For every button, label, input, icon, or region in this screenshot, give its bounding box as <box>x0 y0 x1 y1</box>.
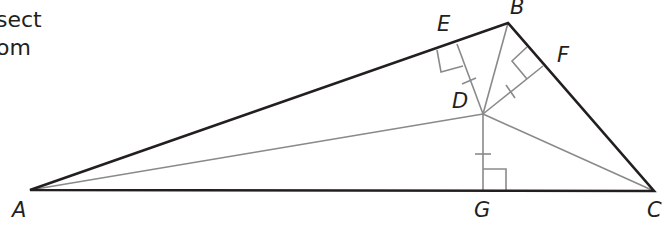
label-g: G <box>474 198 490 222</box>
segment-da <box>30 114 483 190</box>
right-angle-marks <box>437 47 527 190</box>
label-d: D <box>452 89 468 113</box>
triangle-incenter-diagram: A B C D E F G <box>0 0 671 235</box>
segment-dc <box>483 114 654 191</box>
segment-db <box>483 23 508 114</box>
right-angle-mark-e <box>437 50 463 72</box>
label-c: C <box>647 198 662 222</box>
tick-de <box>462 78 476 84</box>
label-f: F <box>557 43 570 67</box>
label-b: B <box>510 0 524 19</box>
tick-df <box>506 85 515 98</box>
right-angle-mark-g <box>483 169 506 190</box>
label-a: A <box>10 198 26 222</box>
right-angle-mark-f <box>512 47 527 79</box>
label-e: E <box>437 12 451 36</box>
segment-df <box>483 66 543 114</box>
